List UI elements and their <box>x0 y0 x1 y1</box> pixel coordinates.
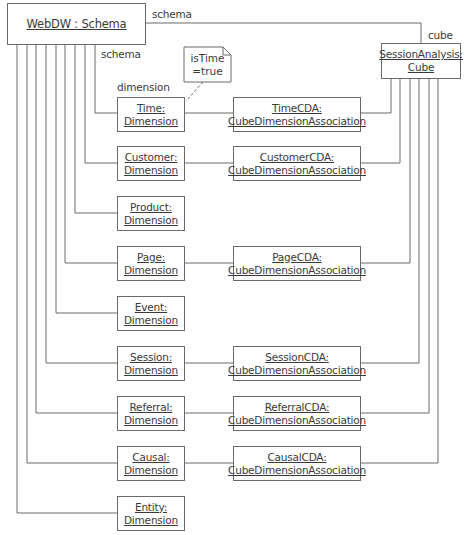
dimension-causal: Causal: Dimension <box>117 446 185 481</box>
link-schema-entity <box>17 44 117 513</box>
association-causal: CausalCDA: CubeDimensionAssociation <box>233 446 361 481</box>
association-type: CubeDimensionAssociation <box>228 464 366 477</box>
dimension-name: Product: <box>130 201 172 214</box>
note-line1: isTime <box>190 52 224 65</box>
association-name: PageCDA: <box>272 251 322 264</box>
association-customer: CustomerCDA: CubeDimensionAssociation <box>233 146 361 181</box>
association-referral: ReferralCDA: CubeDimensionAssociation <box>233 396 361 431</box>
link-schema-session <box>46 44 117 363</box>
cube-label-line1: SessionAnalysis: <box>379 48 463 61</box>
dimension-type: Dimension <box>124 314 178 327</box>
link-schema-customer <box>85 44 117 163</box>
association-name: ReferralCDA: <box>265 401 330 414</box>
dimension-type: Dimension <box>124 514 178 527</box>
dimension-session: Session: Dimension <box>117 346 185 381</box>
association-type: CubeDimensionAssociation <box>228 414 366 427</box>
role-schema-top: schema <box>152 8 192 20</box>
link-schema-causal <box>27 44 117 463</box>
dimension-name: Entity: <box>135 501 167 514</box>
link-schema-page <box>65 44 117 263</box>
dimension-referral: Referral: Dimension <box>117 396 185 431</box>
schema-object: WebDW : Schema <box>7 3 146 45</box>
dimension-type: Dimension <box>124 164 178 177</box>
dimension-entity: Entity: Dimension <box>117 496 185 531</box>
dimension-name: Event: <box>135 301 167 314</box>
dimension-name: Causal: <box>132 451 169 464</box>
dimension-name: Page: <box>137 251 165 264</box>
association-name: TimeCDA: <box>272 102 322 115</box>
dimension-product: Product: Dimension <box>117 196 185 231</box>
association-name: SessionCDA: <box>265 351 329 364</box>
association-session: SessionCDA: CubeDimensionAssociation <box>233 346 361 381</box>
link-schema-referral <box>36 44 117 413</box>
dimension-name: Session: <box>130 351 172 364</box>
dimension-type: Dimension <box>124 414 178 427</box>
cube-object: SessionAnalysis: Cube <box>381 43 461 79</box>
dimension-type: Dimension <box>124 264 178 277</box>
schema-cube-link <box>145 23 421 43</box>
dimension-event: Event: Dimension <box>117 296 185 331</box>
association-page: PageCDA: CubeDimensionAssociation <box>233 246 361 281</box>
dimension-type: Dimension <box>124 115 178 128</box>
association-type: CubeDimensionAssociation <box>228 164 366 177</box>
association-name: CustomerCDA: <box>260 151 334 164</box>
link-schema-product <box>75 44 117 213</box>
dimension-name: Customer: <box>125 151 178 164</box>
role-dimension: dimension <box>117 81 170 93</box>
dimension-type: Dimension <box>124 464 178 477</box>
dimension-name: Referral: <box>130 401 173 414</box>
dimension-type: Dimension <box>124 214 178 227</box>
dimension-page: Page: Dimension <box>117 246 185 281</box>
dimension-time: Time: Dimension <box>117 97 185 132</box>
association-type: CubeDimensionAssociation <box>228 364 366 377</box>
association-name: CausalCDA: <box>267 451 326 464</box>
note-istime: isTime =true <box>184 48 231 82</box>
dimension-customer: Customer: Dimension <box>117 146 185 181</box>
role-cube: cube <box>428 29 453 41</box>
dimension-type: Dimension <box>124 364 178 377</box>
association-time: TimeCDA: CubeDimensionAssociation <box>233 97 361 132</box>
role-schema-left: schema <box>101 48 141 60</box>
dimension-name: Time: <box>137 102 165 115</box>
note-line2: =true <box>192 65 222 78</box>
cube-label-line2: Cube <box>408 61 434 74</box>
association-type: CubeDimensionAssociation <box>228 264 366 277</box>
schema-label: WebDW : Schema <box>27 18 127 31</box>
association-type: CubeDimensionAssociation <box>228 115 366 128</box>
